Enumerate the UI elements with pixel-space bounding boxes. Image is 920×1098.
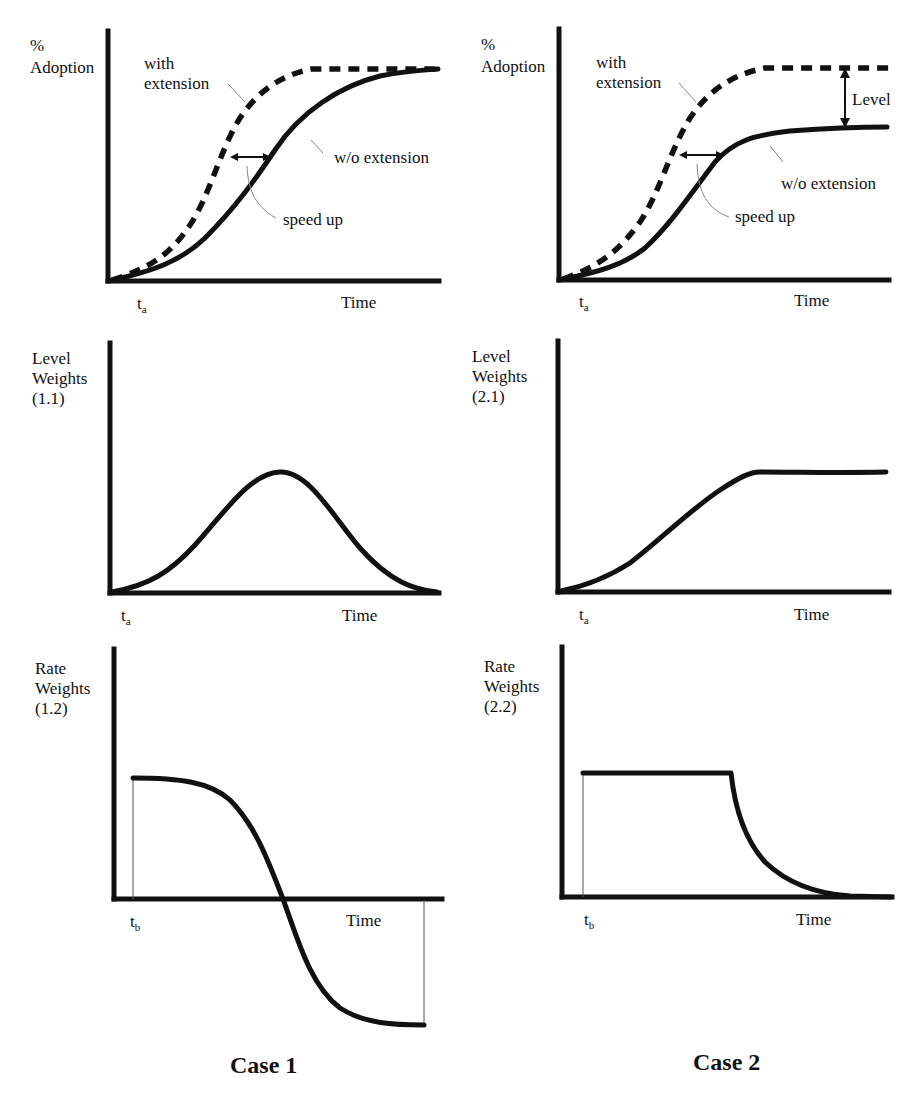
speed-up-leader: [697, 164, 729, 217]
ylabel-line2: Adoption: [481, 57, 546, 76]
ylabel-line1: %: [481, 35, 495, 54]
with-label-line1: with: [144, 54, 175, 73]
panel-rate-weights-case2: Rate Weights (2.2) Time tb Case 2: [484, 647, 892, 1075]
t-label: tb: [584, 910, 595, 931]
x-axis-label: Time: [794, 291, 829, 310]
panel-adoption-case1: % Adoption with extension w/o extension …: [30, 31, 439, 315]
with-label-line2: extension: [596, 73, 662, 92]
ylabel-line1: Level: [472, 347, 511, 366]
level-label: Level: [852, 90, 891, 109]
with-label-line1: with: [596, 53, 627, 72]
level-weight-curve: [561, 472, 886, 591]
level-weight-curve: [112, 472, 437, 592]
x-axis-label: Time: [341, 293, 376, 312]
with-leader: [679, 83, 696, 102]
with-extension-curve: [112, 69, 439, 280]
rate-weight-curve: [583, 773, 891, 897]
x-axis-label: Time: [796, 910, 831, 929]
ylabel-line3: (1.1): [32, 389, 65, 408]
ylabel-line2: Weights: [484, 677, 539, 696]
x-axis-label: Time: [346, 911, 381, 930]
panel-adoption-case2: % Adoption with extension Level w/o exte…: [481, 29, 893, 313]
without-extension-curve: [112, 69, 438, 280]
panel-rate-weights-case1: Rate Weights (1.2) Time tb Case 1: [35, 649, 442, 1078]
panel-level-weights-case1: Level Weights (1.1) Time ta: [32, 343, 439, 627]
ylabel-line2: Adoption: [30, 58, 95, 77]
t-label: ta: [137, 294, 147, 315]
ylabel-line3: (2.2): [484, 697, 517, 716]
case1-title: Case 1: [230, 1052, 297, 1078]
speed-up-label: speed up: [735, 207, 795, 226]
x-axis-label: Time: [342, 606, 377, 625]
without-leader: [311, 140, 323, 153]
without-extension-curve: [563, 127, 887, 279]
panel-level-weights-case2: Level Weights (2.1) Time ta: [472, 341, 889, 626]
t-label: ta: [579, 605, 589, 626]
x-axis-label: Time: [794, 605, 829, 624]
ylabel-line2: Weights: [32, 369, 87, 388]
level-arrow: [840, 68, 850, 128]
t-label: tb: [130, 912, 141, 933]
ylabel-line2: Weights: [472, 367, 527, 386]
ylabel-line3: (2.1): [472, 387, 505, 406]
without-label: w/o extension: [781, 174, 876, 193]
without-label: w/o extension: [334, 148, 429, 167]
ylabel-line1: Rate: [484, 657, 515, 676]
speed-up-arrow: [679, 151, 724, 159]
case2-title: Case 2: [693, 1049, 760, 1075]
t-label: ta: [579, 292, 589, 313]
ylabel-line1: Level: [32, 349, 71, 368]
figure-canvas: % Adoption with extension w/o extension …: [0, 0, 920, 1098]
ylabel-line3: (1.2): [35, 699, 68, 718]
ylabel-line1: %: [30, 36, 44, 55]
without-leader: [770, 146, 783, 162]
speed-up-label: speed up: [283, 210, 343, 229]
ylabel-line2: Weights: [35, 679, 90, 698]
with-label-line2: extension: [144, 74, 210, 93]
ylabel-line1: Rate: [35, 659, 66, 678]
t-label: ta: [121, 606, 131, 627]
speed-up-arrow: [230, 153, 271, 161]
with-leader: [228, 84, 245, 102]
